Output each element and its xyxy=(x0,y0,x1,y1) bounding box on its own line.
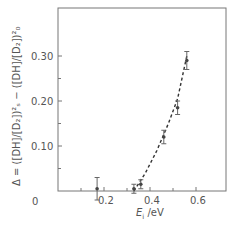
y-tick-label: 0.10 xyxy=(31,141,53,152)
y-axis-title: Δ = ([DH]/[D₂])²ₛ − ([DH]/[D₂])²₀ xyxy=(11,27,22,186)
y-tick-label: 0.30 xyxy=(31,51,53,62)
x-tick-label: 0.6 xyxy=(190,195,206,206)
data-point xyxy=(162,135,166,139)
data-point xyxy=(139,182,143,186)
fit-curve xyxy=(134,56,187,191)
data-point xyxy=(95,187,99,191)
x-tick-label: 0.4 xyxy=(144,195,160,206)
origin-label: 0 xyxy=(32,196,38,207)
x-axis-title: Ei /eV xyxy=(136,207,164,221)
data-point xyxy=(176,106,180,110)
y-tick-label: 0.20 xyxy=(31,96,53,107)
chart: 0.20.40.60.100.200.30 0 Ei /eV Δ = ([DH]… xyxy=(0,0,240,229)
plot-frame xyxy=(58,8,226,191)
x-tick-label: 0.2 xyxy=(98,195,114,206)
data-point xyxy=(185,59,189,63)
plot-area: 0.20.40.60.100.200.30 xyxy=(31,8,226,206)
data-point xyxy=(132,187,136,191)
